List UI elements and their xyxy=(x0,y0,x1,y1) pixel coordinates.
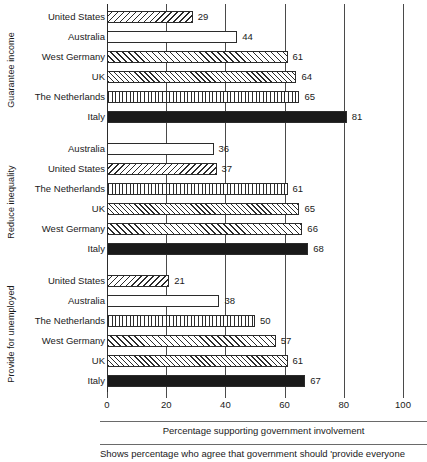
bar-value-label: 66 xyxy=(307,220,318,238)
category-label: Italy xyxy=(88,372,105,390)
bar-value-label: 61 xyxy=(293,352,304,370)
x-tick-20 xyxy=(166,392,167,398)
category-label: West Germany xyxy=(42,332,105,350)
bar-value-label: 65 xyxy=(304,200,315,218)
bar-row: United States29 xyxy=(0,8,427,26)
bar xyxy=(107,51,288,63)
bar-value-label: 65 xyxy=(304,88,315,106)
bar xyxy=(107,71,296,83)
plot-area: Guarantee incomeUnited States29Australia… xyxy=(0,0,427,396)
bar-value-label: 68 xyxy=(313,240,324,258)
bar xyxy=(107,91,299,103)
x-tick-label: 60 xyxy=(270,399,300,410)
bar-row: UK64 xyxy=(0,68,427,86)
category-label: UK xyxy=(92,352,105,370)
category-label: West Germany xyxy=(42,220,105,238)
axis-title-rule-top xyxy=(100,421,427,422)
category-label: The Netherlands xyxy=(35,88,105,106)
bar-value-label: 61 xyxy=(293,180,304,198)
bar-row: West Germany57 xyxy=(0,332,427,350)
bar-group: Guarantee incomeUnited States29Australia… xyxy=(0,8,427,132)
x-tick-label: 80 xyxy=(329,399,359,410)
bar xyxy=(107,243,308,255)
x-tick-label: 100 xyxy=(388,399,418,410)
category-label: Italy xyxy=(88,108,105,126)
bar-chart: Guarantee incomeUnited States29Australia… xyxy=(0,0,427,462)
bar xyxy=(107,295,219,307)
bar-value-label: 44 xyxy=(242,28,253,46)
bar-row: United States21 xyxy=(0,272,427,290)
bar-value-label: 61 xyxy=(293,48,304,66)
category-label: Australia xyxy=(68,292,105,310)
bar xyxy=(107,203,299,215)
bar xyxy=(107,111,347,123)
bar-row: West Germany61 xyxy=(0,48,427,66)
category-label: United States xyxy=(48,272,105,290)
category-label: The Netherlands xyxy=(35,180,105,198)
x-tick-60 xyxy=(285,392,286,398)
bar-row: The Netherlands50 xyxy=(0,312,427,330)
bar-row: United States37 xyxy=(0,160,427,178)
x-tick-label: 20 xyxy=(151,399,181,410)
bar-row: Italy67 xyxy=(0,372,427,390)
bar-value-label: 29 xyxy=(198,8,209,26)
bar-row: Australia36 xyxy=(0,140,427,158)
bar-row: The Netherlands61 xyxy=(0,180,427,198)
x-tick-0 xyxy=(107,392,108,398)
bar xyxy=(107,335,276,347)
bar-value-label: 21 xyxy=(174,272,185,290)
category-label: United States xyxy=(48,8,105,26)
bar-group: Provide for unemployedUnited States21Aus… xyxy=(0,272,427,396)
bar-value-label: 67 xyxy=(310,372,321,390)
x-tick-100 xyxy=(403,392,404,398)
bar-value-label: 64 xyxy=(301,68,312,86)
bar xyxy=(107,223,302,235)
bar-row: Italy68 xyxy=(0,240,427,258)
bar-value-label: 38 xyxy=(224,292,235,310)
bar xyxy=(107,375,305,387)
bar xyxy=(107,163,217,175)
axis-title-rule-bottom xyxy=(100,444,427,445)
bar-row: The Netherlands65 xyxy=(0,88,427,106)
category-label: United States xyxy=(48,160,105,178)
bar xyxy=(107,315,255,327)
chart-footnote: Shows percentage who agree that governme… xyxy=(100,448,427,460)
bar-row: UK61 xyxy=(0,352,427,370)
bar xyxy=(107,11,193,23)
bar-group: Reduce inequalityAustralia36United State… xyxy=(0,140,427,264)
bar-row: Italy81 xyxy=(0,108,427,126)
bar-value-label: 37 xyxy=(222,160,233,178)
category-label: West Germany xyxy=(42,48,105,66)
x-axis-title: Percentage supporting government involve… xyxy=(100,425,427,436)
x-tick-40 xyxy=(225,392,226,398)
x-tick-80 xyxy=(344,392,345,398)
category-label: Australia xyxy=(68,28,105,46)
bar-row: Australia38 xyxy=(0,292,427,310)
bar-value-label: 81 xyxy=(352,108,363,126)
category-label: Italy xyxy=(88,240,105,258)
x-axis: 020406080100 xyxy=(0,392,427,414)
bar-row: West Germany66 xyxy=(0,220,427,238)
category-label: UK xyxy=(92,200,105,218)
bar-value-label: 50 xyxy=(260,312,271,330)
bar-row: UK65 xyxy=(0,200,427,218)
category-label: Australia xyxy=(68,140,105,158)
x-tick-label: 0 xyxy=(92,399,122,410)
bar xyxy=(107,355,288,367)
bar-value-label: 36 xyxy=(219,140,230,158)
bar-row: Australia44 xyxy=(0,28,427,46)
x-tick-label: 40 xyxy=(210,399,240,410)
bar xyxy=(107,143,214,155)
category-label: The Netherlands xyxy=(35,312,105,330)
category-label: UK xyxy=(92,68,105,86)
bar xyxy=(107,275,169,287)
bar-value-label: 57 xyxy=(281,332,292,350)
bar xyxy=(107,183,288,195)
bar xyxy=(107,31,237,43)
